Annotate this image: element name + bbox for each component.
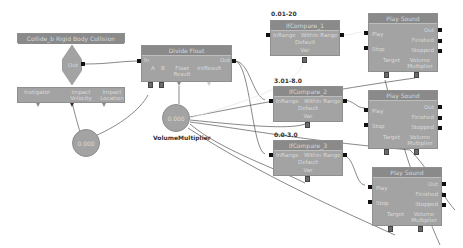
- compare-1-var-connector[interactable]: [302, 57, 307, 63]
- event-vars-bar: Instigator Impact Velocity Impact Locati…: [17, 87, 125, 103]
- sound-2-stopped-port[interactable]: [438, 126, 442, 130]
- sound-2-volume-connector[interactable]: [414, 149, 419, 155]
- sound-3-volume-connector[interactable]: [418, 226, 423, 232]
- sound-3-stop-port[interactable]: [368, 200, 372, 204]
- sound-3-finished-port[interactable]: [442, 193, 446, 197]
- sound-1-finished-port[interactable]: [438, 39, 442, 43]
- sound-3-target-label: Target: [387, 211, 404, 217]
- play-sound-node-3[interactable]: Play Sound Play Stop Out Finished Stoppe…: [372, 167, 442, 226]
- divide-var-b: B: [161, 65, 165, 71]
- sound-3-play-label: Play: [376, 185, 387, 191]
- sound-1-target-connector[interactable]: [384, 72, 389, 78]
- float-result-connector[interactable]: [177, 82, 181, 86]
- compare-3-var-connector[interactable]: [305, 176, 310, 182]
- sound-1-stopped-port[interactable]: [438, 49, 442, 53]
- sound-2-finished-label: Finished: [411, 114, 434, 120]
- sound-1-out-port[interactable]: [438, 28, 442, 32]
- sound-1-stop-port[interactable]: [364, 46, 368, 50]
- sound-2-stop-label: Stop: [372, 123, 385, 129]
- divide-float-node[interactable]: Divide Float In Out A B Float Result Int…: [141, 45, 232, 82]
- compare-1-out-port[interactable]: [340, 33, 344, 37]
- sound-1-play-label: Play: [372, 31, 383, 37]
- compare-node-2[interactable]: IfCompare_2 InRange Within Range Default…: [273, 86, 343, 122]
- sound-2-target-label: Target: [383, 134, 400, 140]
- divide-out-port[interactable]: [232, 59, 236, 63]
- sound-3-out-label: Out: [428, 181, 438, 187]
- sound-3-stop-label: Stop: [376, 200, 389, 206]
- sound-3-stopped-port[interactable]: [442, 203, 446, 207]
- compare-3-var-label: Var: [274, 167, 342, 173]
- divide-in-port[interactable]: [137, 59, 141, 63]
- event-out-label: Out: [68, 62, 78, 68]
- intresult-connector[interactable]: [207, 82, 211, 86]
- sound-2-out-label: Out: [424, 104, 434, 110]
- event-var-impact-velocity: Impact Velocity: [64, 89, 98, 101]
- sound-3-play-port[interactable]: [368, 185, 372, 189]
- sound-3-volume-label: Volume Multiplier: [409, 211, 439, 223]
- sound-3-out-port[interactable]: [442, 182, 446, 186]
- play-sound-node-1[interactable]: Play Sound Play Stop Out Finished Stoppe…: [368, 13, 438, 72]
- event-out-port[interactable]: [81, 62, 85, 66]
- event-var-instigator: Instigator: [24, 89, 50, 95]
- compare-1-out-label: Within Range: [301, 32, 338, 38]
- play-sound-node-2[interactable]: Play Sound Play Stop Out Finished Stoppe…: [368, 90, 438, 149]
- sound-2-stop-port[interactable]: [364, 123, 368, 127]
- event-node-title: Collide_b Rigid Body Collision: [18, 34, 124, 44]
- compare-2-out-label: Within Range: [304, 98, 341, 104]
- sound-1-target-label: Target: [383, 57, 400, 63]
- sound-1-volume-label: Volume Multiplier: [405, 57, 435, 69]
- sound-2-out-port[interactable]: [438, 105, 442, 109]
- divide-in-label: In: [144, 57, 149, 63]
- divide-a-connector[interactable]: [148, 82, 153, 88]
- sound-2-play-port[interactable]: [364, 108, 368, 112]
- sound-1-title: Play Sound: [369, 14, 437, 24]
- velocity-var-connector[interactable]: [70, 103, 74, 107]
- sound-3-finished-label: Finished: [415, 191, 438, 197]
- sound-2-stopped-label: Stopped: [411, 124, 434, 130]
- sound-3-target-connector[interactable]: [388, 226, 393, 232]
- volume-multiplier-value: 0.000: [167, 115, 184, 122]
- compare-2-in-port[interactable]: [269, 99, 273, 103]
- compare-3-default-label: Default: [274, 159, 342, 165]
- sound-3-stopped-label: Stopped: [415, 201, 438, 207]
- compare-2-var-connector[interactable]: [305, 122, 310, 128]
- location-var-connector[interactable]: [102, 103, 106, 107]
- compare-node-1[interactable]: IfCompare_1 InRange Within Range Default…: [270, 20, 340, 56]
- compare-2-default-label: Default: [274, 105, 342, 111]
- compare-2-out-port[interactable]: [343, 99, 347, 103]
- compare-1-in-port[interactable]: [266, 33, 270, 37]
- sound-1-stop-label: Stop: [372, 46, 385, 52]
- sound-2-finished-port[interactable]: [438, 116, 442, 120]
- divide-node-title: Divide Float: [142, 46, 231, 56]
- compare-3-out-port[interactable]: [343, 153, 347, 157]
- compare-1-range-label: 0.01-20: [271, 10, 297, 17]
- sound-1-finished-label: Finished: [411, 37, 434, 43]
- compare-3-in-label: InRange: [276, 152, 299, 158]
- compare-node-3[interactable]: IfCompare_3 InRange Within Range Default…: [273, 140, 343, 176]
- event-var-impact-location: Impact Location: [98, 89, 126, 101]
- divide-var-float-result: Float Result: [172, 65, 192, 77]
- divide-b-connector[interactable]: [159, 82, 164, 88]
- sound-2-play-label: Play: [372, 108, 383, 114]
- compare-3-in-port[interactable]: [269, 153, 273, 157]
- compare-2-title: IfCompare_2: [274, 87, 342, 97]
- sound-1-play-port[interactable]: [364, 31, 368, 35]
- divide-var-a: A: [151, 65, 155, 71]
- sound-3-title: Play Sound: [373, 168, 441, 178]
- sound-1-volume-connector[interactable]: [414, 72, 419, 78]
- volume-multiplier-variable[interactable]: 0.000: [162, 104, 190, 132]
- impact-velocity-variable[interactable]: 0.000: [72, 129, 100, 157]
- instigator-var-connector[interactable]: [36, 103, 40, 107]
- sound-2-title: Play Sound: [369, 91, 437, 101]
- event-node-header[interactable]: Collide_b Rigid Body Collision: [17, 33, 125, 43]
- compare-2-var-label: Var: [274, 113, 342, 119]
- compare-1-default-label: Default: [271, 39, 339, 45]
- sound-1-stopped-label: Stopped: [411, 47, 434, 53]
- compare-3-range-label: 0.0-3.0: [274, 131, 298, 138]
- compare-2-in-label: InRange: [276, 98, 299, 104]
- compare-2-range-label: 3.01-8.0: [274, 77, 302, 84]
- compare-3-title: IfCompare_3: [274, 141, 342, 151]
- compare-3-out-label: Within Range: [304, 152, 341, 158]
- sound-2-target-connector[interactable]: [384, 149, 389, 155]
- divide-out-label: Out: [220, 57, 230, 63]
